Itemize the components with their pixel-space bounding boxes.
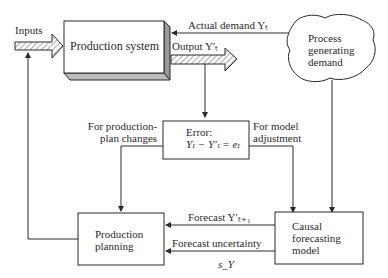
for-production-plan-changes-label: For production- plan changes [86,120,157,144]
forecast-uncertainty-symbol: s_Y [218,258,234,270]
for-model-adjustment-label: For model adjustment [253,120,301,144]
model-line-1: Causal [292,220,341,232]
output-label: Output Y′ₜ [172,40,218,52]
model-line-2: forecasting [292,232,341,244]
error-title: Error: [186,126,240,138]
forecast-uncertainty-label: Forecast uncertainty [172,237,262,249]
error-to-model-edge [249,146,293,212]
inputs-arrow [15,34,63,58]
inputs-label: Inputs [15,24,43,36]
error-to-planning-edge [121,146,163,211]
production-planning-label: Production planning [95,228,143,252]
planning-line-1: Production [95,228,143,240]
cloud-line-2: generating [308,44,354,56]
forecast-label: Forecast Y′ₜ₊₁ [188,211,251,223]
cloud-line-3: demand [308,56,354,68]
cloud-line-1: Process [308,32,354,44]
model-adjustment-line-2: adjustment [253,132,301,144]
model-line-3: model [292,244,341,256]
production-system-label: Production system [70,40,159,52]
causal-forecasting-model-label: Causal forecasting model [292,220,341,256]
planning-to-inputs-edge [28,53,78,239]
plan-changes-line-2: plan changes [86,132,157,144]
error-label: Error: Yₜ − Y′ₜ = eₜ [186,126,240,150]
error-equation: Yₜ − Y′ₜ = eₜ [186,138,240,150]
model-adjustment-line-1: For model [253,120,301,132]
plan-changes-line-1: For production- [86,120,157,132]
planning-line-2: planning [95,240,143,252]
actual-demand-label: Actual demand Yₜ [188,19,268,31]
process-generating-demand-label: Process generating demand [308,32,354,68]
